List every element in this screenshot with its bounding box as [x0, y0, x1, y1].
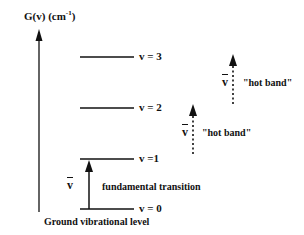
- level-label-v2: v = 2: [139, 101, 162, 113]
- axis-arrowhead: [36, 29, 43, 41]
- energy-level-diagram: [0, 0, 304, 235]
- fundamental-transition-label: fundamental transition: [102, 181, 201, 192]
- hot-band-lower-wavenumber-symbol: v: [182, 125, 188, 140]
- level-label-v3: v = 3: [139, 50, 162, 62]
- hot-band-lower-label: "hot band": [202, 127, 251, 138]
- hot-band-upper-wavenumber-symbol: v: [222, 75, 228, 90]
- hot-band-arrowhead-upper: [229, 54, 237, 66]
- fundamental-arrowhead: [85, 160, 93, 172]
- level-label-v0: v = 0: [139, 202, 162, 214]
- ground-level-label: Ground vibrational level: [44, 216, 149, 227]
- hot-band-upper-label: "hot band": [243, 77, 292, 88]
- fundamental-wavenumber-symbol: v: [67, 178, 73, 193]
- level-label-v1: v =1: [139, 152, 159, 164]
- hot-band-arrowhead-lower: [189, 104, 197, 116]
